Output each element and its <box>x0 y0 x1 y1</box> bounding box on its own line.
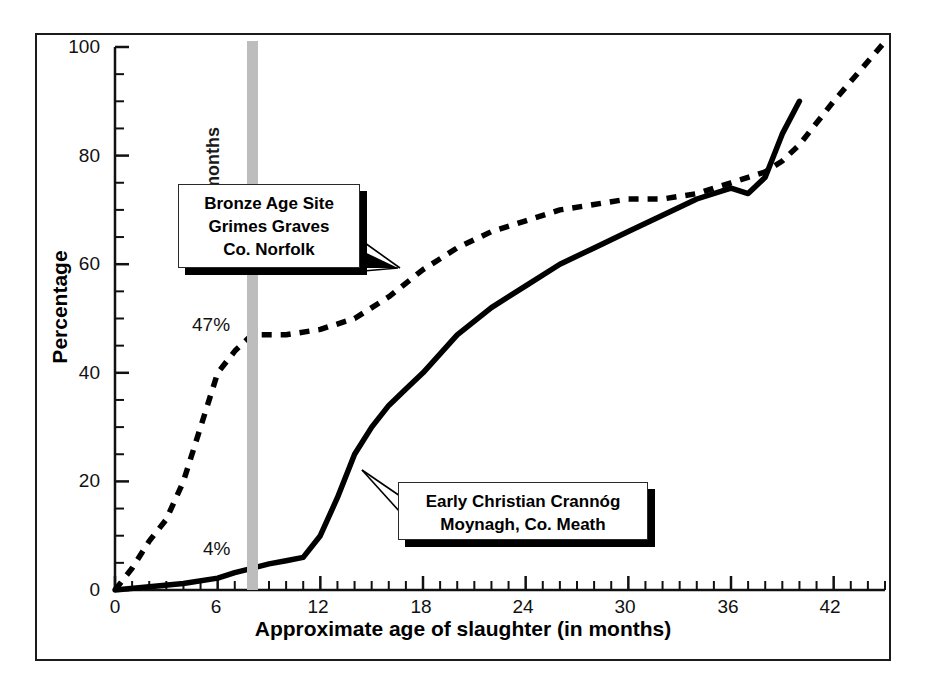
y-axis-title: Percentage <box>48 207 72 407</box>
y-tick-label-0: 0 <box>28 579 100 601</box>
callout-crannog-line2: Moynagh, Co. Meath <box>399 513 647 536</box>
x-tick-label-42: 42 <box>810 596 850 618</box>
y-axis-minor-ticks <box>115 74 124 563</box>
y-tick-label-100: 100 <box>28 36 100 58</box>
reference-band-8-months <box>247 41 258 590</box>
callout-early-christian-crannog[interactable]: Early Christian Crannóg Moynagh, Co. Mea… <box>398 482 648 540</box>
x-tick-label-30: 30 <box>605 596 645 618</box>
callout-bronze-line3: Co. Norfolk <box>179 238 359 261</box>
x-tick-label-6: 6 <box>196 596 236 618</box>
x-tick-label-0: 0 <box>95 596 135 618</box>
callout-bronze-line2: Grimes Graves <box>179 215 359 238</box>
y-tick-label-80: 80 <box>28 145 100 167</box>
x-tick-label-12: 12 <box>298 596 338 618</box>
annotation-4-percent: 4% <box>203 538 230 560</box>
x-tick-label-24: 24 <box>503 596 543 618</box>
x-tick-label-36: 36 <box>708 596 748 618</box>
y-tick-label-20: 20 <box>28 470 100 492</box>
x-axis-title: Approximate age of slaughter (in months) <box>0 617 926 641</box>
callout-bronze-age-site[interactable]: Bronze Age Site Grimes Graves Co. Norfol… <box>178 184 360 268</box>
callout-bronze-line1: Bronze Age Site <box>179 192 359 215</box>
chart-figure: 8 months 100 80 60 40 20 0 0 6 12 18 24 <box>0 0 926 696</box>
callout-pointer-crannog <box>362 470 400 512</box>
callout-crannog-line1: Early Christian Crannóg <box>399 490 647 513</box>
plot-area <box>0 0 926 696</box>
annotation-47-percent: 47% <box>192 314 230 336</box>
x-axis-minor-ticks <box>132 581 885 590</box>
x-tick-label-18: 18 <box>401 596 441 618</box>
